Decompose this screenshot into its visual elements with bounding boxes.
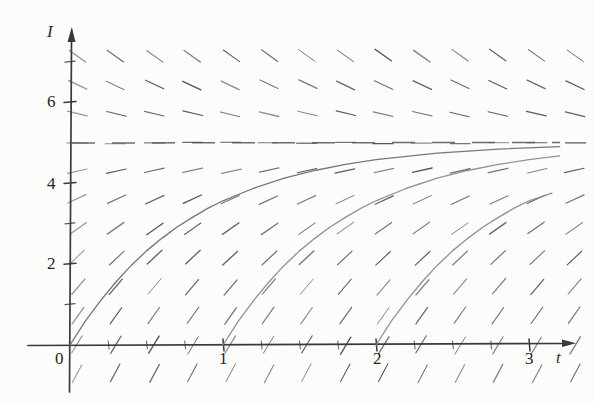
x-tick-label-1: 1 (219, 349, 228, 369)
solution-curves (70, 147, 560, 345)
slope-field-figure: I t 6 4 2 0 1 2 3 (0, 0, 594, 405)
origin-label: 0 (55, 349, 64, 369)
y-axis-label: I (47, 22, 53, 42)
slope-field-plot (0, 0, 594, 405)
x-axis-label: t (556, 348, 561, 368)
slope-field-marks (67, 49, 586, 383)
y-tick-label-2: 2 (47, 254, 56, 274)
y-tick-label-4: 4 (47, 174, 56, 194)
x-tick-label-2: 2 (373, 349, 382, 369)
y-tick-label-6: 6 (47, 92, 56, 112)
x-tick-label-3: 3 (525, 349, 534, 369)
